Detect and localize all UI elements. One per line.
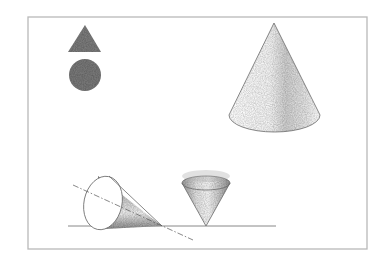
shaded-circle-icon <box>69 59 101 91</box>
shaded-triangle-icon <box>68 25 101 52</box>
tipped-cone <box>79 173 162 234</box>
large-upright-cone <box>229 23 320 132</box>
inverted-cone <box>182 170 230 226</box>
drawing-canvas <box>0 0 384 260</box>
